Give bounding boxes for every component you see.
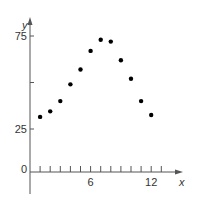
x-tick-label: 6 [88,176,94,188]
data-point [58,99,62,103]
scatter-chart: 61202575 y x [0,0,202,202]
y-tick-label: 75 [15,30,27,42]
data-point [139,99,143,103]
data-point [119,58,123,62]
data-point [38,115,42,119]
x-axis-label: x [178,176,185,188]
data-point [48,109,52,113]
y-axis-arrow-icon [28,17,33,25]
x-tick-label: 12 [145,176,157,188]
data-point [78,67,82,71]
data-point [109,39,113,43]
y-tick-label: 25 [15,123,27,135]
data-point [129,77,133,81]
data-point [88,49,92,53]
tick-labels: 61202575 [15,30,158,188]
data-point [149,113,153,117]
axes [28,17,184,194]
x-axis-arrow-icon [175,170,183,175]
x-ticks [40,166,161,172]
data-point [68,82,72,86]
y-tick-label: 0 [21,163,27,175]
y-ticks [30,36,34,129]
data-point [99,38,103,42]
data-points [38,38,154,120]
